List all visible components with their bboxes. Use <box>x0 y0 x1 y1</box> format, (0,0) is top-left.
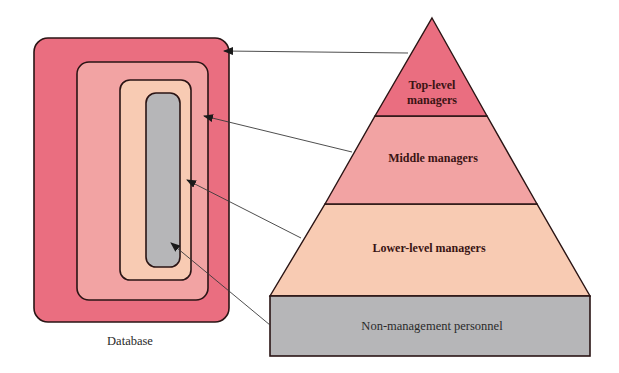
middle-managers-label: Middle managers <box>388 151 478 165</box>
top-level-label-line2: managers <box>407 93 457 107</box>
database-label: Database <box>107 334 153 348</box>
database-graphic <box>34 38 229 322</box>
pyramid <box>270 18 590 356</box>
management-database-diagram: Database Top-level managers Middle manag… <box>0 0 619 373</box>
non-management-label: Non-management personnel <box>361 319 503 333</box>
lower-level-managers-label: Lower-level managers <box>372 241 486 255</box>
top-level-label-line1: Top-level <box>409 78 457 92</box>
arrow-top-level <box>224 51 408 53</box>
database-layer-non-management <box>146 93 180 267</box>
